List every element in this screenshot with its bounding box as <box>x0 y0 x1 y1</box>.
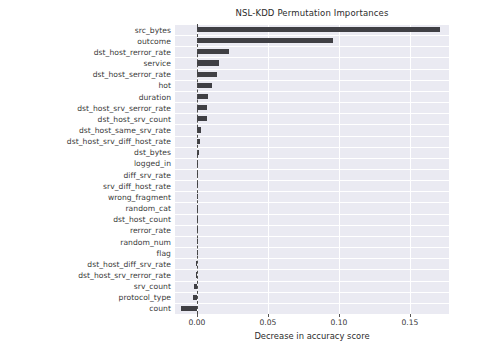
horizontal-gridline <box>175 225 449 226</box>
y-tick-label: dst_host_srv_diff_host_rate <box>0 137 171 146</box>
y-tick-label: srv_count <box>0 282 171 291</box>
horizontal-gridline <box>175 202 449 203</box>
horizontal-gridline <box>175 191 449 192</box>
horizontal-gridline <box>175 102 449 103</box>
plot-area <box>175 24 449 314</box>
horizontal-gridline <box>175 214 449 215</box>
horizontal-gridline <box>175 269 449 270</box>
horizontal-gridline <box>175 180 449 181</box>
horizontal-gridline <box>175 91 449 92</box>
horizontal-gridline <box>175 281 449 282</box>
vertical-gridline <box>410 24 411 314</box>
horizontal-gridline <box>175 35 449 36</box>
y-tick-label: dst_host_count <box>0 215 171 224</box>
horizontal-gridline <box>175 158 449 159</box>
bar <box>197 49 229 54</box>
horizontal-gridline <box>175 169 449 170</box>
y-tick-label: dst_host_srv_rerror_rate <box>0 270 171 279</box>
y-tick-label: count <box>0 304 171 313</box>
permutation-importance-chart: NSL-KDD Permutation Importances src_byte… <box>0 0 482 362</box>
y-tick-label: dst_host_srv_count <box>0 114 171 123</box>
bar <box>197 27 440 32</box>
y-tick-label: service <box>0 59 171 68</box>
bar <box>197 60 219 65</box>
x-tick-mark <box>339 314 340 317</box>
y-tick-label: dst_host_srv_serror_rate <box>0 103 171 112</box>
bar <box>197 38 333 43</box>
horizontal-gridline <box>175 303 449 304</box>
y-tick-label: dst_host_same_srv_rate <box>0 125 171 134</box>
horizontal-gridline <box>175 247 449 248</box>
bar <box>197 105 207 110</box>
y-tick-label: random_num <box>0 237 171 246</box>
y-tick-label: rerror_rate <box>0 226 171 235</box>
bar <box>197 94 208 99</box>
horizontal-gridline <box>175 124 449 125</box>
x-tick-mark <box>197 314 198 317</box>
bar <box>181 306 197 311</box>
horizontal-gridline <box>175 80 449 81</box>
y-tick-label: dst_host_diff_srv_rate <box>0 259 171 268</box>
x-axis-title: Decrease in accuracy score <box>175 331 449 341</box>
y-tick-label: dst_host_rerror_rate <box>0 47 171 56</box>
horizontal-gridline <box>175 147 449 148</box>
y-tick-label: dst_bytes <box>0 148 171 157</box>
y-tick-label: wrong_fragment <box>0 192 171 201</box>
y-tick-label: srv_diff_host_rate <box>0 181 171 190</box>
x-tick-mark <box>268 314 269 317</box>
x-axis-tick-labels: 0.000.050.100.15 <box>175 318 449 332</box>
y-tick-label: random_cat <box>0 204 171 213</box>
chart-title: NSL-KDD Permutation Importances <box>175 8 449 18</box>
y-tick-label: dst_host_serror_rate <box>0 70 171 79</box>
zero-reference-line <box>197 24 198 314</box>
y-tick-label: duration <box>0 92 171 101</box>
x-tick-label: 0.00 <box>189 318 206 327</box>
y-tick-label: hot <box>0 81 171 90</box>
horizontal-gridline <box>175 113 449 114</box>
bar <box>197 116 207 121</box>
x-tick-label: 0.10 <box>331 318 348 327</box>
horizontal-gridline <box>175 258 449 259</box>
y-tick-label: src_bytes <box>0 25 171 34</box>
horizontal-gridline <box>175 292 449 293</box>
y-tick-label: diff_srv_rate <box>0 170 171 179</box>
x-tick-label: 0.15 <box>401 318 418 327</box>
y-tick-label: protocol_type <box>0 293 171 302</box>
horizontal-gridline <box>175 46 449 47</box>
horizontal-gridline <box>175 24 449 25</box>
y-tick-label: flag <box>0 248 171 257</box>
horizontal-gridline <box>175 136 449 137</box>
vertical-gridline <box>339 24 340 314</box>
y-axis-tick-labels: src_bytesoutcomedst_host_rerror_rateserv… <box>0 24 171 314</box>
y-tick-label: outcome <box>0 36 171 45</box>
bar <box>197 83 212 88</box>
bar <box>197 72 217 77</box>
y-tick-label: logged_in <box>0 159 171 168</box>
horizontal-gridline <box>175 69 449 70</box>
x-tick-mark <box>410 314 411 317</box>
vertical-gridline <box>268 24 269 314</box>
x-tick-label: 0.05 <box>260 318 277 327</box>
horizontal-gridline <box>175 236 449 237</box>
horizontal-gridline <box>175 57 449 58</box>
